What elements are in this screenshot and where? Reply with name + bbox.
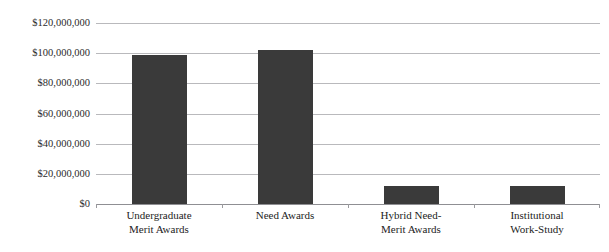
bar-chart: $0$20,000,000$40,000,000$60,000,000$80,0… bbox=[0, 0, 609, 252]
x-tick-label: Institutional Work-Study bbox=[474, 208, 600, 236]
y-axis: $0$20,000,000$40,000,000$60,000,000$80,0… bbox=[0, 23, 90, 204]
y-tick-label: $0 bbox=[4, 199, 90, 209]
gridline bbox=[96, 53, 600, 54]
chart-title bbox=[0, 0, 609, 2]
y-tick-label: $80,000,000 bbox=[4, 78, 90, 88]
bar[interactable] bbox=[510, 186, 565, 204]
y-tick-label: $60,000,000 bbox=[4, 109, 90, 119]
x-axis: Undergraduate Merit AwardsNeed AwardsHyb… bbox=[96, 208, 600, 248]
plot-area bbox=[96, 23, 600, 204]
x-tick-label: Undergraduate Merit Awards bbox=[96, 208, 222, 236]
gridline bbox=[96, 23, 600, 24]
y-tick-label: $40,000,000 bbox=[4, 139, 90, 149]
bar[interactable] bbox=[258, 50, 313, 204]
x-tick-label: Hybrid Need- Merit Awards bbox=[348, 208, 474, 236]
bar[interactable] bbox=[132, 55, 187, 204]
x-tick-label: Need Awards bbox=[222, 208, 348, 222]
y-tick-label: $100,000,000 bbox=[4, 48, 90, 58]
bar[interactable] bbox=[384, 186, 439, 204]
y-tick-label: $20,000,000 bbox=[4, 169, 90, 179]
y-tick-label: $120,000,000 bbox=[4, 18, 90, 28]
